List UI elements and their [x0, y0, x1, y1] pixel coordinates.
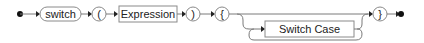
end-dot-icon [398, 11, 404, 17]
terminal-rbrace-label: } [378, 8, 382, 20]
nonterminal-switch-case: Switch Case [265, 21, 354, 37]
nonterminal-expression: Expression [119, 6, 177, 22]
terminal-lparen: ( [92, 7, 106, 21]
loop-entry-path [237, 14, 261, 29]
switch-statement-railroad-diagram: switch ( Expression ) { Switch Case [0, 0, 424, 43]
arrow-icon [88, 11, 92, 17]
terminal-rbrace: } [373, 7, 387, 21]
arrow-icon [211, 11, 215, 17]
terminal-rparen-label: ) [191, 8, 195, 20]
arrow-icon [369, 11, 373, 17]
terminal-switch: switch [40, 7, 81, 21]
terminal-rparen: ) [186, 7, 200, 21]
terminal-lbrace: { [215, 7, 229, 21]
arrow-icon [182, 11, 186, 17]
nonterminal-switch-case-label: Switch Case [279, 23, 340, 35]
terminal-lparen-label: ( [97, 8, 101, 20]
loop-exit-path [354, 14, 368, 29]
arrow-icon [36, 11, 40, 17]
arrow-icon [114, 11, 118, 17]
arrow-icon [261, 26, 265, 32]
nonterminal-expression-label: Expression [121, 8, 175, 20]
terminal-lbrace-label: { [220, 8, 224, 20]
terminal-switch-label: switch [45, 8, 76, 20]
